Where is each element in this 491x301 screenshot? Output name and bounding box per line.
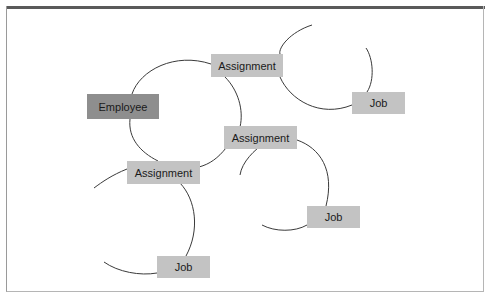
assignment-node-3: Assignment xyxy=(127,161,200,184)
arc-job1-right xyxy=(366,48,372,92)
job-node-2: Job xyxy=(307,206,360,228)
arc-job2-bottom xyxy=(262,225,307,230)
connector-arcs xyxy=(0,0,491,301)
employee-node: Employee xyxy=(87,94,159,119)
arc-assignment3-job3-left xyxy=(94,169,127,188)
assignment-node-1: Assignment xyxy=(211,54,283,77)
assignment-node-2: Assignment xyxy=(224,126,297,149)
arc-assignment1-job1-top xyxy=(280,25,312,54)
arc-assignment3-job3-right xyxy=(180,183,195,256)
arc-assignment3-employee xyxy=(130,119,158,161)
job-node-1: Job xyxy=(352,92,405,114)
job-node-3: Job xyxy=(157,256,210,278)
arc-employee-assignment1 xyxy=(132,60,211,94)
arc-assignment2-assignment3 xyxy=(199,148,226,167)
arc-job3-bottom xyxy=(104,262,157,274)
arc-assignment1-assignment2 xyxy=(225,77,241,127)
arc-assignment1-job1-bottom xyxy=(280,77,352,109)
arc-assignment2-job2-right xyxy=(297,140,329,206)
